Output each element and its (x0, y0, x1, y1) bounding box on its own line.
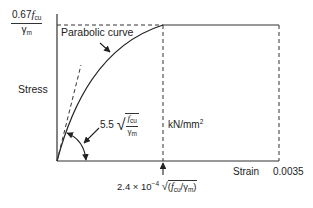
stress-strain-diagram (0, 0, 313, 208)
design-strength-label: 0.67fcu γm (11, 9, 42, 36)
y-axis-label: Stress (18, 84, 48, 95)
parabolic-curve (57, 25, 163, 161)
x-axis-label: Strain (233, 167, 259, 177)
peak-strain-label: 2.4 × 10−4 √(fcu/γm) (117, 181, 197, 194)
curve-label-pointer (100, 43, 110, 52)
tangent-angle-arc (67, 133, 86, 160)
tangent-modulus-label: 5.5 √ fcu γm (100, 113, 139, 137)
initial-tangent-dashed-line (57, 65, 81, 161)
ultimate-strain-value: 0.0035 (273, 167, 304, 177)
units-label: kN/mm2 (168, 119, 203, 130)
parabolic-curve-label: Parabolic curve (61, 27, 133, 38)
tangent-label-pointer (84, 128, 99, 143)
